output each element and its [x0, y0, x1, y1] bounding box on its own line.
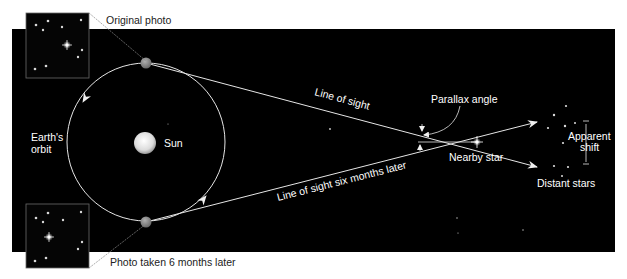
sky-background [12, 29, 615, 252]
parallax-angle-label: Parallax angle [431, 93, 498, 105]
earths-orbit-label-line2: orbit [31, 143, 52, 155]
sun [134, 132, 156, 154]
apparent-shift-label-line2: shift [580, 141, 599, 153]
photo-later-label: Photo taken 6 months later [110, 256, 236, 268]
nearby-star-label: Nearby star [449, 151, 504, 163]
sun-label: Sun [164, 137, 183, 149]
original-photo-inset [26, 13, 89, 78]
parallax-diagram: Original photo Photo taken 6 months late… [0, 0, 627, 279]
earth-position-1 [141, 58, 152, 69]
earths-orbit-label-line1: Earth's [31, 131, 63, 143]
original-photo-label: Original photo [106, 14, 172, 26]
distant-stars-label: Distant stars [537, 177, 595, 189]
earth-position-2 [141, 217, 152, 228]
later-photo-inset [26, 204, 89, 268]
